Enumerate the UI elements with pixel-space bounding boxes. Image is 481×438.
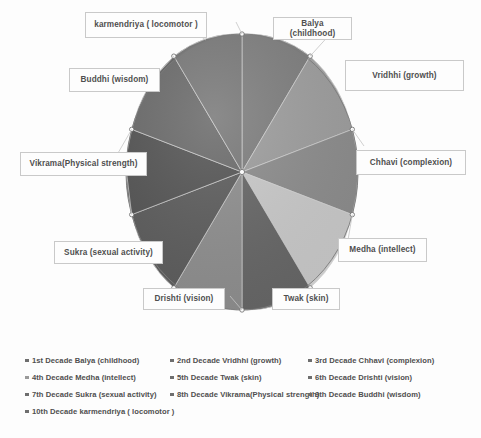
legend-item-2[interactable]: 2nd Decade Vridhhi (growth)	[170, 356, 281, 365]
callout-twak-label: Twak (skin)	[283, 294, 328, 303]
legend-swatch-icon	[25, 393, 29, 397]
pie-chart-svg	[126, 34, 358, 310]
legend-item-1[interactable]: 1st Decade Balya (childhood)	[25, 356, 139, 365]
figure-canvas: karmendriya ( locomotor ) Balya (childho…	[0, 0, 481, 438]
callout-balya[interactable]: Balya (childhood)	[273, 17, 352, 40]
pie-chart: karmendriya ( locomotor ) Balya (childho…	[0, 0, 481, 340]
legend-swatch-icon	[308, 393, 312, 397]
legend-label: 3rd Decade Chhavi (complexion)	[315, 356, 434, 365]
leader-line-balya	[236, 22, 242, 34]
legend-swatch-icon	[25, 410, 29, 414]
legend-item-5[interactable]: 5th Decade Twak (skin)	[170, 373, 262, 382]
legend-label: 6th Decade Drishti (vision)	[315, 373, 412, 382]
callout-twak[interactable]: Twak (skin)	[272, 288, 340, 310]
chart-legend: 1st Decade Balya (childhood) 2nd Decade …	[0, 350, 481, 420]
legend-label: 4th Decade Medha (intellect)	[32, 373, 136, 382]
legend-swatch-icon	[170, 359, 174, 363]
legend-item-9[interactable]: 9th Decade Buddhi (wisdom)	[308, 390, 421, 399]
callout-buddhi-label: Buddhi (wisdom)	[81, 75, 149, 84]
callout-karmendriya[interactable]: karmendriya ( locomotor )	[85, 12, 207, 38]
legend-swatch-icon	[308, 376, 312, 380]
legend-item-4[interactable]: 4th Decade Medha (intellect)	[25, 373, 136, 382]
legend-item-8[interactable]: 8th Decade Vikrama(Physical strength)	[170, 390, 319, 399]
legend-label: 5th Decade Twak (skin)	[177, 373, 262, 382]
data-marker-center	[239, 169, 244, 174]
callout-drishti-label: Drishti (vision)	[155, 294, 214, 303]
callout-medha-label: Medha (intellect)	[349, 245, 415, 254]
legend-label: 8th Decade Vikrama(Physical strength)	[177, 390, 319, 399]
legend-label: 10th Decade karmendriya ( locomotor )	[32, 407, 174, 416]
callout-sukra[interactable]: Sukra (sexual activity)	[54, 241, 163, 264]
callout-vridhhi[interactable]: Vridhhi (growth)	[345, 60, 464, 91]
legend-item-3[interactable]: 3rd Decade Chhavi (complexion)	[308, 356, 434, 365]
callout-karmendriya-label: karmendriya ( locomotor )	[94, 20, 198, 29]
legend-label: 9th Decade Buddhi (wisdom)	[315, 390, 421, 399]
callout-vikrama[interactable]: Vikrama(Physical strength)	[20, 152, 147, 176]
legend-label: 1st Decade Balya (childhood)	[32, 356, 139, 365]
legend-label: 2nd Decade Vridhhi (growth)	[177, 356, 281, 365]
legend-swatch-icon	[25, 376, 29, 380]
callout-buddhi[interactable]: Buddhi (wisdom)	[69, 68, 160, 92]
legend-swatch-icon	[170, 376, 174, 380]
legend-swatch-icon	[170, 393, 174, 397]
callout-chhavi[interactable]: Chhavi (complexion)	[356, 150, 466, 175]
legend-label: 7th Decade Sukra (sexual activity)	[32, 390, 157, 399]
callout-drishti[interactable]: Drishti (vision)	[143, 288, 225, 310]
legend-item-6[interactable]: 6th Decade Drishti (vision)	[308, 373, 412, 382]
callout-sukra-label: Sukra (sexual activity)	[64, 248, 153, 257]
legend-swatch-icon	[25, 359, 29, 363]
legend-swatch-icon	[308, 359, 312, 363]
callout-balya-label: Balya (childhood)	[278, 19, 347, 37]
legend-item-7[interactable]: 7th Decade Sukra (sexual activity)	[25, 390, 157, 399]
callout-vridhhi-label: Vridhhi (growth)	[372, 71, 436, 80]
legend-item-10[interactable]: 10th Decade karmendriya ( locomotor )	[25, 407, 174, 416]
callout-medha[interactable]: Medha (intellect)	[338, 238, 427, 262]
callout-chhavi-label: Chhavi (complexion)	[370, 158, 452, 167]
callout-vikrama-label: Vikrama(Physical strength)	[29, 159, 137, 168]
